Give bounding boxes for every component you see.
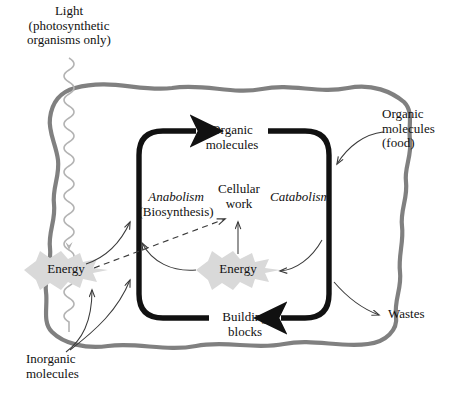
arrow-catabolism-to-wastes	[334, 282, 379, 315]
label-cellular-work: Cellular work	[211, 182, 267, 211]
label-organic-molecules-inner: Organic molecules	[196, 123, 268, 152]
label-energy-center: Energy	[208, 262, 268, 277]
arrow-energy-left-to-cellular-work-dashed	[94, 219, 225, 268]
label-inorganic-molecules: Inorganic molecules	[26, 352, 118, 381]
arrow-food-into-cell	[337, 132, 383, 164]
label-anabolism: Anabolism (Biosynthesis)	[134, 190, 218, 219]
arrow-catabolism-to-energy	[280, 240, 322, 271]
label-building-blocks: Building blocks	[209, 310, 281, 339]
metabolism-diagram: Light (photosynthetic organisms only) Or…	[0, 0, 453, 394]
arrow-energy-center-to-anabolism	[142, 243, 196, 270]
label-energy-left: Energy	[36, 262, 96, 277]
label-organic-molecules-food: Organic molecules (food)	[382, 107, 452, 151]
label-light: Light (photosynthetic organisms only)	[8, 4, 130, 48]
label-wastes: Wastes	[388, 307, 448, 322]
arrow-energy-left-to-anabolism	[86, 222, 130, 264]
label-catabolism: Catabolism	[267, 190, 333, 205]
